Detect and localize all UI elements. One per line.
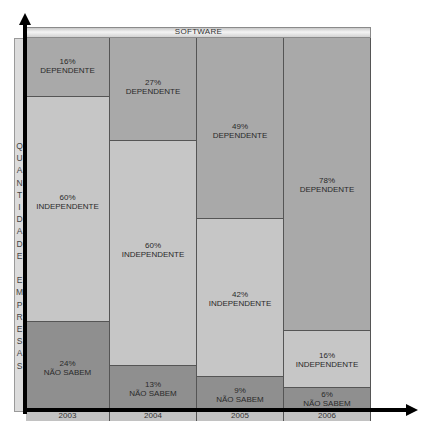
segment-nao-sabem: 6% NÃO SABEM [284,387,370,410]
segment-dependente: 49% DEPENDENTE [197,38,283,219]
segment-value: 60% [59,193,75,202]
segment-label: NÃO SABEM [303,399,351,408]
segment-value: 27% [145,78,161,87]
x-axis-line [23,408,408,412]
bar-column-2005: 49% DEPENDENTE 42% INDEPENDENTE 9% NÃO S… [197,38,284,410]
segment-nao-sabem: 9% NÃO SABEM [197,376,283,410]
segment-value: 13% [145,380,161,389]
segment-independente: 16% INDEPENDENTE [284,330,370,388]
arrow-right-icon [406,404,418,416]
segment-independente: 60% INDEPENDENTE [26,96,109,322]
segment-independente: 60% INDEPENDENTE [110,140,196,366]
segment-nao-sabem: 13% NÃO SABEM [110,365,196,410]
segment-label: INDEPENDENTE [36,202,99,211]
segment-label: NÃO SABEM [216,395,264,404]
bar-column-2006: 78% DEPENDENTE 16% INDEPENDENTE 6% NÃO S… [284,38,371,410]
segment-value: 24% [59,359,75,368]
segment-label: INDEPENDENTE [209,299,272,308]
segment-value: 9% [234,386,246,395]
segment-label: DEPENDENTE [213,131,268,140]
segment-value: 42% [232,290,248,299]
y-axis-line [23,24,27,414]
bar-column-2004: 27% DEPENDENTE 60% INDEPENDENTE 13% NÃO … [110,38,197,410]
segment-dependente: 78% DEPENDENTE [284,38,370,331]
segment-dependente: 16% DEPENDENTE [26,38,109,97]
bar-column-2003: 16% DEPENDENTE 60% INDEPENDENTE 24% NÃO … [26,38,110,410]
segment-dependente: 27% DEPENDENTE [110,38,196,141]
chart-title-bar: SOFTWARE [26,27,371,38]
segment-label: DEPENDENTE [40,66,95,75]
segment-value: 60% [145,241,161,250]
segment-label: NÃO SABEM [44,368,92,377]
segment-label: DEPENDENTE [126,87,181,96]
segment-value: 16% [59,57,75,66]
segment-nao-sabem: 24% NÃO SABEM [26,321,109,410]
segment-label: INDEPENDENTE [296,360,359,369]
segment-value: 49% [232,122,248,131]
segment-label: INDEPENDENTE [122,250,185,259]
segment-value: 78% [319,176,335,185]
segment-label: NÃO SABEM [129,389,177,398]
segment-independente: 42% INDEPENDENTE [197,218,283,377]
segment-label: DEPENDENTE [300,185,355,194]
segment-value: 16% [319,351,335,360]
arrow-up-icon [19,13,31,25]
chart-title: SOFTWARE [27,27,370,36]
segment-value: 6% [321,390,333,399]
